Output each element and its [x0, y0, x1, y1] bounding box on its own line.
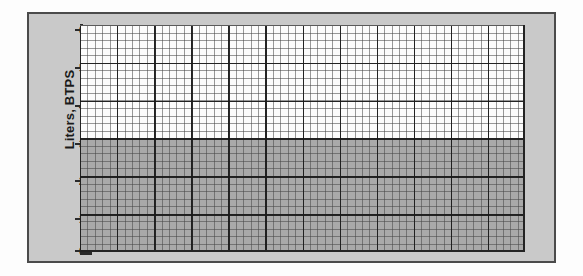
x-axis-origin-spine — [80, 252, 92, 255]
plot-top-border — [80, 25, 525, 26]
plot-right-border — [523, 25, 525, 252]
plot-area — [80, 25, 525, 252]
figure-root: Liters, BTPS 6 5 4 3 2 1 0 — [0, 0, 583, 276]
major-gridlines — [80, 25, 525, 252]
chart-panel: Liters, BTPS 6 5 4 3 2 1 0 — [27, 12, 556, 263]
plot-bottom-border — [80, 250, 525, 252]
